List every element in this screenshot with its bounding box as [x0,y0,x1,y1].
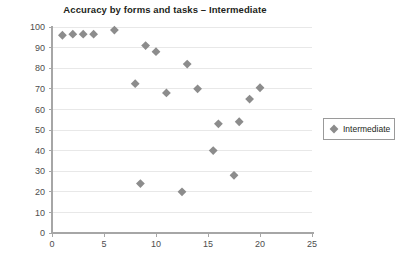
data-point-marker [162,89,171,98]
data-point-marker [214,119,223,128]
x-tick-label: 10 [151,239,161,249]
data-point-marker [193,84,202,93]
data-point-marker [141,41,150,50]
data-point-marker [230,171,239,180]
data-point-marker [89,30,98,39]
y-tick-label: 40 [35,146,45,156]
y-tick-label: 80 [35,63,45,73]
y-tick-label: 20 [35,187,45,197]
y-tick-label: 10 [35,208,45,218]
legend-entry-label: Intermediate [343,124,390,134]
y-tick-label: 90 [35,43,45,53]
x-tick-label: 5 [101,239,106,249]
y-tick-label: 70 [35,84,45,94]
y-tick-label: 50 [35,125,45,135]
data-point-marker [235,117,244,126]
x-tick-label: 0 [49,239,54,249]
data-point-marker [136,179,145,188]
legend-diamond-icon [329,124,339,134]
data-point-marker [58,31,67,40]
data-point-marker [79,30,88,39]
y-tick-label: 100 [30,22,45,32]
data-point-marker [131,79,140,88]
data-point-marker [152,47,161,56]
y-tick-label: 30 [35,166,45,176]
data-point-marker [178,187,187,196]
chart-legend: Intermediate [323,118,395,140]
chart-container: Accuracy by forms and tasks – Intermedia… [0,0,401,266]
data-point-marker [245,95,254,104]
y-tick-label: 60 [35,105,45,115]
data-point-marker [183,60,192,69]
x-tick-label: 25 [307,239,317,249]
x-tick-label: 20 [255,239,265,249]
data-point-marker [68,30,77,39]
x-tick-label: 15 [203,239,213,249]
y-tick-label: 0 [40,228,45,238]
data-point-marker [256,83,265,92]
data-point-marker [209,146,218,155]
